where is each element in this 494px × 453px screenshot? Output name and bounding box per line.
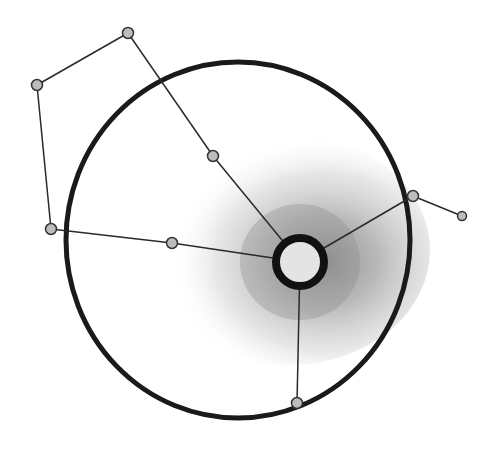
hub-ring [276,238,324,286]
node-n8 [292,398,303,409]
node-n4 [167,238,178,249]
node-n2 [32,80,43,91]
diagram-canvas [0,0,494,453]
node-n3 [46,224,57,235]
node-n5 [208,151,219,162]
node-n1 [123,28,134,39]
node-n7 [458,212,467,221]
edge [37,33,128,85]
edge [37,85,51,229]
node-n6 [408,191,419,202]
